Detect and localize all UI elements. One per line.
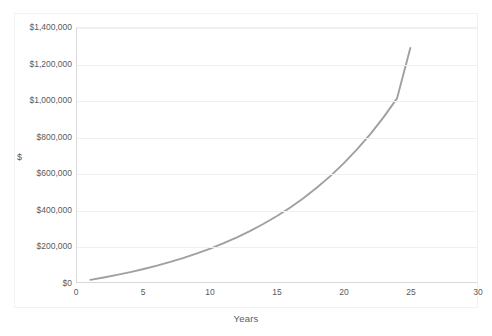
y-axis-tick-label: $200,000: [2, 241, 72, 251]
x-axis-tick-label: 25: [391, 287, 431, 297]
chart-container: $0$200,000$400,000$600,000$800,000$1,000…: [0, 0, 492, 336]
x-axis-tick-label: 10: [190, 287, 230, 297]
y-axis-tick-label: $400,000: [2, 205, 72, 215]
y-axis-tick-labels: $0$200,000$400,000$600,000$800,000$1,000…: [0, 27, 72, 283]
x-axis-tick-labels: 051015202530: [76, 287, 478, 301]
y-axis-title: $: [17, 152, 22, 162]
x-axis-tick-label: 15: [257, 287, 297, 297]
gridline: [77, 28, 477, 29]
y-axis-tick-label: $1,200,000: [2, 59, 72, 69]
line-series-svg: [77, 28, 477, 282]
gridline: [77, 247, 477, 248]
x-axis-tick-label: 0: [56, 287, 96, 297]
x-axis-tick-label: 5: [123, 287, 163, 297]
y-axis-tick-label: $600,000: [2, 168, 72, 178]
gridline: [77, 138, 477, 139]
series-line-balance: [90, 48, 410, 280]
y-axis-tick-label: $800,000: [2, 132, 72, 142]
gridline: [77, 174, 477, 175]
gridline: [77, 65, 477, 66]
gridline: [77, 101, 477, 102]
y-axis-tick-label: $1,400,000: [2, 22, 72, 32]
y-axis-tick-label: $1,000,000: [2, 95, 72, 105]
gridline: [77, 211, 477, 212]
x-axis-tick-label: 30: [458, 287, 492, 297]
x-axis-tick-label: 20: [324, 287, 364, 297]
x-axis-title: Years: [0, 313, 492, 324]
plot-area: [76, 27, 478, 283]
